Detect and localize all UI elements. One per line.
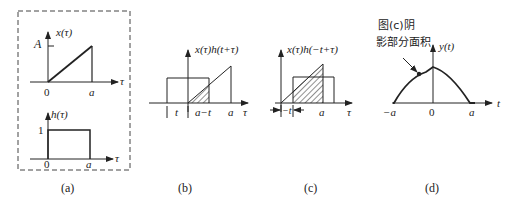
tick-t: t (175, 106, 179, 118)
origin-label: 0 (44, 158, 50, 170)
tick-a: a (228, 106, 234, 118)
caption-c: (c) (304, 181, 317, 195)
tick-minus-t: −t (282, 105, 292, 116)
amplitude-label: A (33, 37, 42, 51)
plot-x-tau: A x(τ) τ 0 a (30, 26, 125, 98)
origin-label: 0 (44, 86, 50, 98)
tick-a: a (319, 106, 325, 118)
y-curve (393, 67, 475, 103)
tick-a: a (469, 106, 475, 118)
panel-c: −t a τ x(τ)h(−t+τ) (c) (270, 43, 352, 195)
caption-a: (a) (61, 181, 74, 195)
caption-d: (d) (425, 181, 439, 195)
amplitude-label: 1 (38, 124, 44, 136)
panel-b: x(τ)h(t+τ) t a−t a τ (b) (149, 43, 248, 195)
end-label: a (86, 158, 92, 170)
func-label: y(t) (438, 40, 455, 53)
func-label: x(τ) (55, 26, 72, 39)
func-label: x(τ)h(t+τ) (194, 43, 239, 56)
dashed-frame (18, 11, 130, 170)
func-label: h(τ) (51, 108, 68, 121)
axis-label: t (497, 97, 501, 109)
overlap-hatch (293, 64, 323, 103)
convolution-diagram: A x(τ) τ 0 a h(τ) 1 τ 0 a (a) x(τ)h(t+τ)… (0, 0, 518, 210)
axis-label: τ (347, 106, 352, 118)
ramp-line (48, 46, 92, 82)
tick-zero: 0 (429, 106, 435, 118)
axis-label: τ (120, 75, 125, 87)
end-label: a (89, 86, 95, 98)
rect-pulse (48, 130, 90, 159)
plot-h-tau: h(τ) 1 τ 0 a (30, 108, 120, 170)
func-label: x(τ)h(−t+τ) (286, 43, 338, 56)
tick-a-minus-t: a−t (195, 106, 212, 118)
tick-minus-a: −a (383, 106, 396, 118)
annotation-line1: 图(c)阴 (378, 19, 415, 32)
annotation-line2: 影部分面积 (376, 35, 431, 49)
annotation-arrow (403, 58, 417, 72)
panel-d: 图(c)阴 影部分面积 y(t) −a 0 a t (d) (376, 19, 501, 195)
axis-label: τ (115, 152, 120, 164)
axis-label: τ (243, 106, 248, 118)
area-point (417, 72, 421, 76)
caption-b: (b) (178, 181, 192, 195)
panel-a: A x(τ) τ 0 a h(τ) 1 τ 0 a (a) (18, 11, 130, 195)
